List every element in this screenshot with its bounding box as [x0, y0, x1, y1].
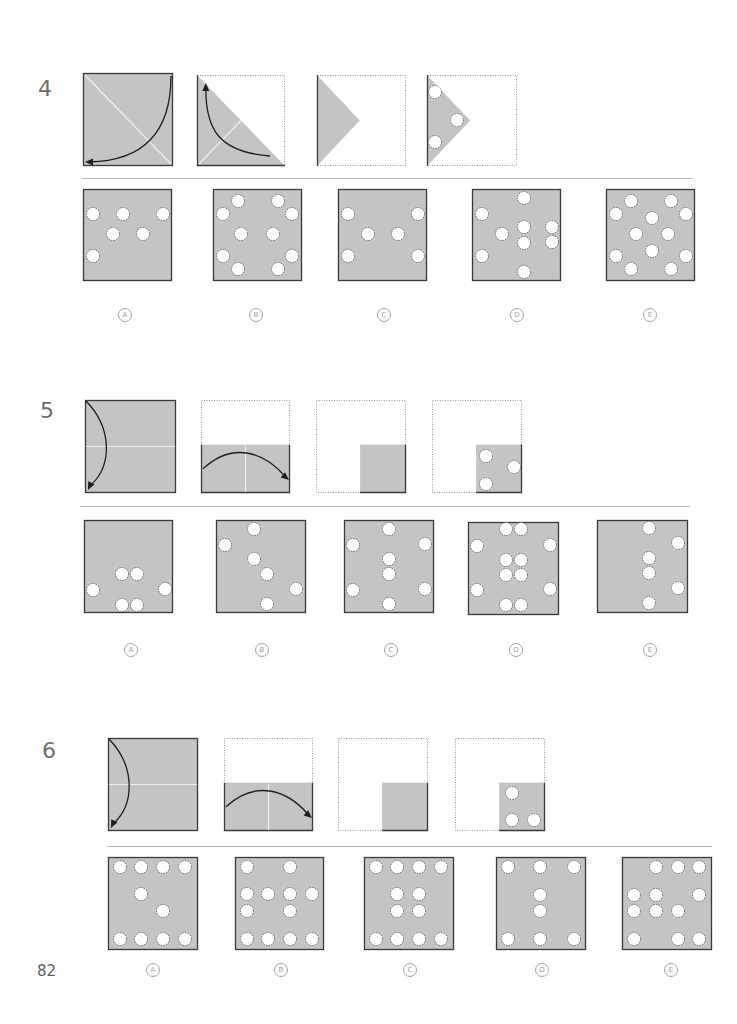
question-6-fold-step-2 [224, 738, 313, 831]
question-6-option-b-label[interactable]: B [274, 963, 288, 977]
punched-hole [217, 250, 230, 263]
question-5-option-e-label[interactable]: E [643, 643, 657, 657]
punched-hole [546, 236, 559, 249]
punched-hole [362, 228, 375, 241]
punched-hole [650, 861, 663, 874]
punched-hole [383, 553, 396, 566]
punched-hole [534, 861, 547, 874]
punched-hole [179, 861, 192, 874]
punched-hole [370, 933, 383, 946]
punched-hole [515, 599, 528, 612]
punched-hole [114, 861, 127, 874]
punched-hole [568, 861, 581, 874]
question-6-option-b[interactable] [235, 857, 324, 950]
punched-hole [157, 861, 170, 874]
question-4-option-d-label[interactable]: D [510, 308, 524, 322]
question-4-option-c-label[interactable]: C [377, 308, 391, 322]
punched-hole [515, 569, 528, 582]
punched-hole [672, 582, 685, 595]
punched-hole [502, 861, 515, 874]
punched-hole [534, 933, 547, 946]
question-4-option-b-label[interactable]: B [249, 308, 263, 322]
punched-hole [506, 787, 519, 800]
punched-hole [284, 861, 297, 874]
question-4-option-e-label[interactable]: E [643, 308, 657, 322]
punched-hole [413, 933, 426, 946]
question-6-option-d-label[interactable]: D [535, 963, 549, 977]
question-5-option-c-label[interactable]: C [384, 643, 398, 657]
punched-hole [217, 208, 230, 221]
punched-hole [232, 263, 245, 276]
workbook-page: 82 4ABCDE5ABCDE6ABCDE [0, 0, 737, 1024]
question-6-option-e[interactable] [622, 857, 712, 950]
punched-hole [646, 245, 659, 258]
question-6-fold-step-1 [108, 738, 198, 831]
question-5-option-b-label[interactable]: B [255, 643, 269, 657]
punched-hole [500, 523, 513, 536]
punched-hole [347, 584, 360, 597]
question-6-option-a[interactable] [108, 857, 198, 950]
question-5-option-e[interactable] [597, 520, 688, 613]
punched-hole [500, 554, 513, 567]
punched-hole [267, 228, 280, 241]
punched-hole [528, 814, 541, 827]
punched-hole [643, 567, 656, 580]
punched-hole [518, 192, 531, 205]
punched-hole [114, 933, 127, 946]
question-4-fold-step-3 [317, 75, 406, 166]
question-4-fold-step-1 [83, 73, 173, 166]
question-5-option-d[interactable] [468, 522, 559, 615]
question-5-option-a[interactable] [84, 520, 173, 613]
punched-hole [290, 583, 303, 596]
question-4-option-a[interactable] [83, 189, 172, 281]
punched-hole [157, 933, 170, 946]
question-6-option-d[interactable] [496, 857, 586, 950]
punched-hole [179, 933, 192, 946]
question-5-option-b[interactable] [216, 520, 306, 613]
question-5-option-c[interactable] [344, 520, 434, 613]
punched-hole [286, 208, 299, 221]
punched-hole [680, 208, 693, 221]
question-4-option-d[interactable] [472, 189, 561, 281]
punched-hole [672, 861, 685, 874]
punched-hole [232, 195, 245, 208]
question-4-option-e[interactable] [606, 189, 695, 281]
punched-hole [546, 221, 559, 234]
punched-hole [429, 136, 442, 149]
punched-hole [286, 250, 299, 263]
punched-hole [383, 523, 396, 536]
punched-hole [518, 237, 531, 250]
question-4-option-b[interactable] [213, 189, 302, 281]
punched-hole [471, 584, 484, 597]
question-4-option-c[interactable] [338, 189, 427, 281]
punched-hole [662, 228, 675, 241]
punched-hole [157, 208, 170, 221]
punched-hole [248, 523, 261, 536]
punched-hole [413, 888, 426, 901]
punched-hole [665, 195, 678, 208]
punched-hole [262, 888, 275, 901]
punched-hole [628, 905, 641, 918]
punched-hole [159, 583, 172, 596]
punched-hole [643, 552, 656, 565]
question-6-option-a-label[interactable]: A [146, 963, 160, 977]
punched-hole [262, 933, 275, 946]
question-6-option-e-label[interactable]: E [664, 963, 678, 977]
punched-hole [284, 905, 297, 918]
question-5-option-d-label[interactable]: D [509, 643, 523, 657]
punched-hole [116, 599, 129, 612]
punched-hole [643, 597, 656, 610]
punched-hole [342, 250, 355, 263]
punched-hole [87, 208, 100, 221]
question-6-option-c-label[interactable]: C [403, 963, 417, 977]
question-5-option-a-label[interactable]: A [124, 643, 138, 657]
punched-hole [500, 599, 513, 612]
punched-hole [342, 208, 355, 221]
punched-hole [518, 221, 531, 234]
punched-hole [435, 861, 448, 874]
punched-hole [476, 208, 489, 221]
question-6-option-c[interactable] [364, 857, 454, 950]
punched-hole [476, 250, 489, 263]
question-4-option-a-label[interactable]: A [118, 308, 132, 322]
punched-hole [496, 228, 509, 241]
